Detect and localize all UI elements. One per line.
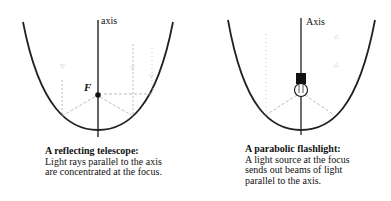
- telescope-caption: A reflecting telescope: Light rays paral…: [45, 146, 165, 178]
- ray-arrow-icon: ▽: [60, 63, 65, 69]
- beam-left-diag: [266, 95, 297, 115]
- beam-right-diag: [305, 95, 334, 115]
- flashlight-figure: Axis △ △: [228, 16, 375, 135]
- axis-label-left: axis: [101, 15, 117, 26]
- light-bulb-icon: [295, 73, 308, 97]
- axis-label-right: Axis: [306, 16, 325, 27]
- focus-point: [95, 92, 101, 98]
- beam-arrow-icon: △: [334, 61, 339, 67]
- focus-label: F: [83, 81, 92, 93]
- flashlight-caption-body: A light source at the focus sends out be…: [245, 155, 365, 187]
- beam-arrow-icon: △: [334, 33, 339, 39]
- telescope-caption-title: A reflecting telescope:: [45, 146, 165, 157]
- reflect-right: [100, 97, 133, 116]
- reflect-left: [62, 96, 96, 116]
- telescope-figure: axis ▽ ▽ ▽ F: [23, 15, 173, 137]
- ray-arrow-icon: ▽: [130, 65, 135, 71]
- telescope-caption-body: Light rays parallel to the axis are conc…: [45, 157, 165, 178]
- ray-arrow-icon: ▽: [149, 73, 154, 79]
- flashlight-caption: A parabolic flashlight: A light source a…: [245, 144, 365, 186]
- flashlight-caption-title: A parabolic flashlight:: [245, 144, 365, 155]
